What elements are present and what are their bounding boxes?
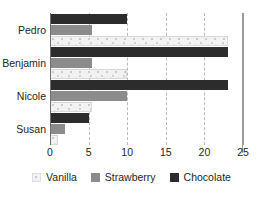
bar-pedro-vanilla (50, 36, 228, 46)
x-axis-origin-line (50, 13, 51, 145)
bar-susan-chocolate (50, 113, 89, 123)
bar-benjamin-chocolate (50, 47, 228, 57)
legend-item-vanilla[interactable]: Vanilla (32, 172, 77, 183)
gridline (243, 13, 244, 145)
bar-pedro-strawberry (50, 25, 92, 35)
x-tick-label: 10 (121, 147, 133, 158)
category-label: Pedro (0, 25, 46, 36)
x-axis-tick-labels: 0510152025 (50, 147, 243, 161)
x-tick-label: 5 (86, 147, 92, 158)
category-axis-labels: PedroBenjaminNicoleSusan (0, 0, 46, 145)
legend-label: Strawberry (105, 172, 156, 183)
legend-swatch-vanilla-icon (32, 173, 41, 182)
plot-area (50, 13, 243, 145)
x-axis-max-line (242, 13, 243, 153)
x-tick-label: 25 (237, 147, 249, 158)
x-tick-label: 0 (47, 147, 53, 158)
legend-swatch-chocolate-icon (170, 173, 179, 182)
legend-label: Vanilla (46, 172, 77, 183)
legend-item-chocolate[interactable]: Chocolate (170, 172, 231, 183)
x-tick-label: 15 (160, 147, 172, 158)
legend-item-strawberry[interactable]: Strawberry (91, 172, 156, 183)
bar-chart: PedroBenjaminNicoleSusan 0510152025 Vani… (0, 0, 263, 197)
bar-nicole-chocolate (50, 80, 228, 90)
bar-nicole-vanilla (50, 102, 92, 112)
bar-pedro-chocolate (50, 14, 127, 24)
bar-susan-vanilla (50, 135, 58, 145)
chart-legend: VanillaStrawberryChocolate (0, 172, 263, 183)
bar-benjamin-strawberry (50, 58, 92, 68)
category-label: Nicole (0, 91, 46, 102)
legend-swatch-strawberry-icon (91, 173, 100, 182)
bar-susan-strawberry (50, 124, 65, 134)
category-label: Susan (0, 124, 46, 135)
bar-nicole-strawberry (50, 91, 127, 101)
category-label: Benjamin (0, 58, 46, 69)
x-tick-label: 20 (199, 147, 211, 158)
legend-label: Chocolate (184, 172, 231, 183)
bar-benjamin-vanilla (50, 69, 127, 79)
